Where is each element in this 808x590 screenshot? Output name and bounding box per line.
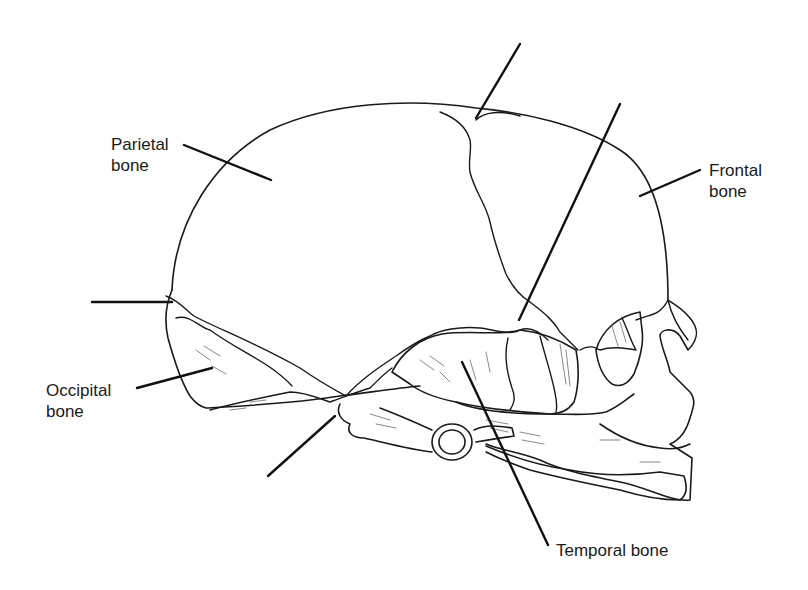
leader-occipital (137, 368, 212, 388)
temporal-internal-suture (506, 336, 557, 412)
cranial-vault-outline (172, 103, 697, 500)
leader-temporal (462, 362, 548, 545)
mastoid-region (338, 404, 432, 452)
leader-anterolateral-fontanelle (519, 104, 620, 320)
occipital-lower-suture (210, 368, 392, 410)
squamosal-suture (346, 327, 548, 396)
lambdoid-suture (166, 296, 346, 396)
nasal-suture (636, 300, 688, 340)
maxilla-outline (600, 424, 690, 449)
coronal-suture (440, 112, 578, 350)
label-temporal-bone: Temporal bone (556, 540, 668, 561)
label-frontal-bone: Frontal bone (709, 160, 762, 202)
leader-top-fontanelle (476, 44, 520, 118)
ear-canal-inner (439, 430, 465, 454)
coronal-top-branch (476, 113, 520, 120)
occipital-outline (166, 290, 420, 408)
mandible-outline (486, 446, 686, 500)
leader-mastoid-fontanelle (268, 416, 335, 476)
leader-parietal (184, 145, 271, 180)
label-parietal-bone: Parietal bone (111, 134, 169, 176)
shading-hatches (196, 322, 660, 462)
label-occipital-bone: Occipital bone (46, 380, 111, 422)
skull-diagram (0, 0, 808, 590)
orbit-sutures (580, 318, 636, 350)
